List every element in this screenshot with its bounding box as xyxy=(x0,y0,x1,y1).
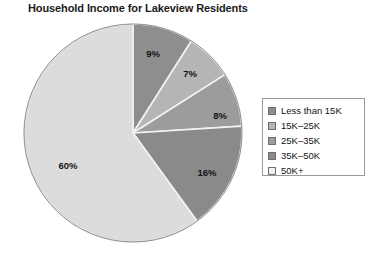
legend: Less than 15K15K–25K25K–35K35K–50K50K+ xyxy=(262,98,365,176)
legend-item[interactable]: 50K+ xyxy=(268,164,364,178)
legend-swatch-icon xyxy=(268,107,276,115)
pie-chart-svg xyxy=(23,23,243,243)
pie-slice-label: 60% xyxy=(58,160,77,171)
pie-slice-label: 16% xyxy=(197,167,216,178)
legend-item[interactable]: 35K–50K xyxy=(268,149,364,163)
legend-swatch-icon xyxy=(268,137,276,145)
legend-swatch-icon xyxy=(268,122,276,130)
legend-item-label: 25K–35K xyxy=(281,136,320,146)
pie-slice-group xyxy=(24,24,242,242)
legend-item-label: Less than 15K xyxy=(281,106,342,116)
legend-item-label: 15K–25K xyxy=(281,121,320,131)
legend-item[interactable]: 25K–35K xyxy=(268,134,364,148)
legend-item-label: 35K–50K xyxy=(281,151,320,161)
legend-swatch-icon xyxy=(268,152,276,160)
legend-rows: Less than 15K15K–25K25K–35K35K–50K50K+ xyxy=(268,104,364,178)
legend-swatch-icon xyxy=(268,167,276,175)
legend-item-label: 50K+ xyxy=(281,166,303,176)
legend-item[interactable]: Less than 15K xyxy=(268,104,364,118)
chart-screenshot: Household Income for Lakeview Residents … xyxy=(0,0,381,260)
page-title: Household Income for Lakeview Residents xyxy=(28,2,248,14)
pie-slice-label: 7% xyxy=(183,68,197,79)
pie-slice-label: 9% xyxy=(146,48,160,59)
pie-chart: 9%7%8%16%60% xyxy=(23,23,243,243)
pie-slice-label: 8% xyxy=(213,110,227,121)
legend-item[interactable]: 15K–25K xyxy=(268,119,364,133)
